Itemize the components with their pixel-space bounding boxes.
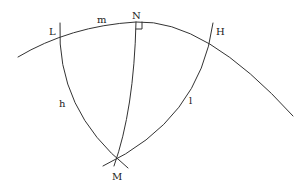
spherical-triangle-diagram: L m N H h l M [0, 0, 306, 191]
label-h: h [59, 98, 66, 109]
label-M: M [112, 171, 122, 182]
arc-h-LM [60, 23, 128, 168]
label-L: L [49, 26, 56, 37]
arc-l-HM [103, 23, 213, 166]
label-H: H [216, 26, 225, 37]
label-m: m [97, 14, 107, 25]
right-angle-marker [136, 22, 142, 29]
label-N: N [132, 10, 141, 21]
label-l: l [189, 95, 192, 106]
arc-NM [114, 22, 136, 166]
